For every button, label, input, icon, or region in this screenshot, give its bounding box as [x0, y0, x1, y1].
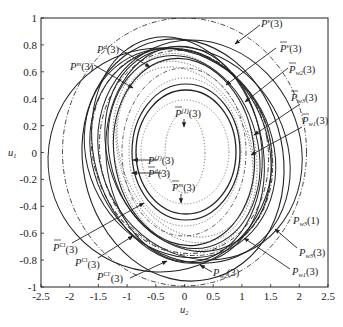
x-tick-label: 0 [182, 290, 188, 302]
label-pw3: Pw3(3) [298, 247, 326, 259]
label-pbarw2: Pw2(3) [288, 64, 316, 76]
x-tick-labels: -2.5 -2 -1.5 -1 -0.5 0 0.5 1 1.5 2 2.5 [32, 290, 335, 302]
y-tick-label: -0.8 [20, 254, 38, 266]
label-pcl: PCl(3) [74, 256, 100, 271]
curve-pbarw2 [93, 38, 277, 266]
label-pj: P(J)(3) [147, 154, 174, 167]
y-axis-label: u1 [8, 147, 17, 159]
annotation-labels: Pv(3) Pv(3) Pw2(3) Pw3(3) Pw1(3) Pd(3) P… [52, 17, 329, 285]
x-tick-label: 1.5 [264, 290, 278, 302]
curve-pw1 [51, 10, 329, 300]
curve-pbard [132, 84, 240, 220]
x-tick-label: 2.5 [321, 290, 335, 302]
label-pw1: Pw1(3) [291, 266, 319, 278]
label-pw2: Pw2(3) [212, 267, 240, 279]
label-pbarj: P(J)(3) [174, 107, 201, 120]
x-tick-label: -1.5 [90, 290, 108, 302]
x-tick-label: -1 [123, 290, 132, 302]
label-pd: Pd(3) [96, 43, 119, 56]
x-tick-label: 2 [297, 290, 303, 302]
y-tick-label: 0 [32, 147, 38, 159]
y-tick-label: 0.8 [23, 39, 37, 51]
y-tick-label: -1 [28, 281, 37, 293]
chart: -2.5 -2 -1.5 -1 -0.5 0 0.5 1 1.5 2 2.5 1… [0, 0, 343, 327]
y-tick-label: 0.4 [23, 93, 37, 105]
label-pbarv: Pv(3) [279, 42, 302, 55]
label-pbarw3: Pw3(3) [290, 92, 318, 104]
x-tick-label: 1 [239, 290, 245, 302]
x-tick-label: -0.5 [147, 290, 165, 302]
y-tick-label: -0.4 [20, 200, 38, 212]
y-tick-label: -0.6 [20, 227, 38, 239]
y-tick-label: 0.6 [23, 66, 37, 78]
y-tick-label: 1 [32, 12, 38, 24]
label-pv: Pv(3) [260, 17, 283, 30]
label-pw3-1: Pw3(1) [292, 215, 320, 227]
x-axis-label: u2 [180, 304, 189, 316]
y-tick-labels: 1 0.8 0.6 0.4 0.2 0 -0.2 -0.4 -0.6 -0.8 … [20, 12, 38, 293]
label-pclp: PCl'(3) [96, 270, 123, 285]
curve-pbarj [165, 113, 205, 193]
label-pbarcl: PCl(3) [52, 241, 78, 256]
curve-pbarcl [61, 21, 304, 283]
label-pbarw1: Pw1(3) [301, 115, 329, 127]
y-tick-label: -0.2 [20, 173, 37, 185]
y-tick-label: 0.2 [23, 120, 37, 132]
label-pbarm: Pm(3) [171, 181, 196, 194]
label-pbard: Pd(3) [147, 167, 170, 180]
x-tick-label: 0.5 [206, 290, 220, 302]
label-pm: Pm(3) [69, 60, 94, 73]
x-tick-label: -2 [65, 290, 74, 302]
